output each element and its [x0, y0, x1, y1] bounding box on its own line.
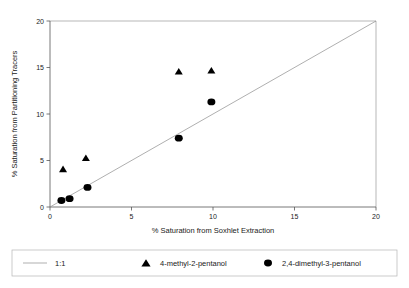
y-axis-ticks — [47, 21, 51, 207]
data-point — [57, 197, 65, 204]
legend-label-circle-series: 2,4-dimethyl-3-pentanol — [282, 259, 361, 268]
circle-marker-icon — [264, 260, 272, 267]
x-axis-ticks — [50, 207, 376, 211]
series-2-markers — [57, 99, 215, 204]
data-point — [207, 67, 215, 74]
data-point — [59, 166, 67, 173]
x-tick-label-0: 0 — [48, 213, 52, 220]
data-point — [82, 154, 90, 161]
legend-label-triangle-series: 4-methyl-2-pentanol — [160, 259, 227, 268]
data-point — [175, 135, 183, 142]
data-point — [83, 184, 91, 191]
data-point-layer — [57, 67, 215, 204]
x-tick-label-5: 5 — [130, 213, 134, 220]
data-point — [66, 195, 74, 202]
y-axis-title: % Saturation from Partitioning Tracers — [10, 50, 19, 177]
y-tick-label-0: 0 — [40, 204, 44, 211]
x-tick-label-15: 15 — [291, 213, 299, 220]
x-tick-label-20: 20 — [372, 213, 380, 220]
scatter-chart-figure: 20 15 10 5 0 0 5 10 15 20 % Saturation f… — [0, 0, 409, 288]
legend-label-reference: 1:1 — [55, 259, 65, 268]
series-1-markers — [59, 67, 215, 172]
x-tick-label-10: 10 — [209, 213, 217, 220]
x-axis-title: % Saturation from Soxhlet Extraction — [152, 226, 275, 235]
y-tick-label-10: 10 — [36, 111, 44, 118]
one-to-one-reference-line — [50, 21, 376, 207]
chart-canvas: 20 15 10 5 0 0 5 10 15 20 % Saturation f… — [0, 0, 409, 288]
data-point — [207, 99, 215, 106]
chart-legend: 1:1 4-methyl-2-pentanol 2,4-dimethyl-3-p… — [12, 250, 397, 276]
y-tick-label-20: 20 — [36, 18, 44, 25]
y-tick-label-5: 5 — [40, 157, 44, 164]
data-point — [175, 68, 183, 75]
y-tick-label-15: 15 — [36, 64, 44, 71]
